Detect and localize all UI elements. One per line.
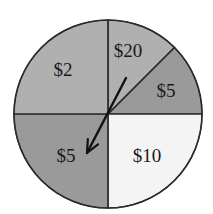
sector-label-5-right: $5 — [157, 80, 176, 101]
spinner-figure: $20 $5 $10 $5 $2 — [0, 0, 213, 214]
spinner-wheel[interactable]: $20 $5 $10 $5 $2 — [0, 0, 213, 214]
sector-label-20: $20 — [114, 40, 143, 61]
sector-label-5-left: $5 — [57, 145, 76, 166]
sector-label-2: $2 — [54, 59, 73, 80]
sector-label-10: $10 — [133, 145, 162, 166]
